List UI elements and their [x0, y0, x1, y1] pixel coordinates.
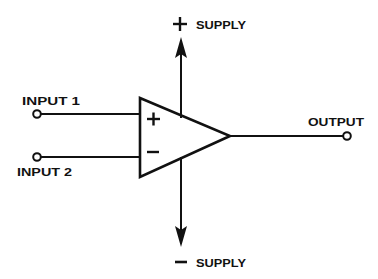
plus-supply-sign-icon [173, 17, 187, 31]
input1-label: INPUT 1 [22, 95, 81, 107]
input2-label: INPUT 2 [17, 166, 72, 178]
plus-supply-label: SUPPLY [196, 19, 246, 31]
plus-sign-icon [147, 113, 160, 126]
input1-terminal [33, 110, 41, 118]
minus-supply-label: SUPPLY [196, 257, 246, 269]
input2-terminal [33, 153, 41, 161]
op-amp-diagram: INPUT 1 INPUT 2 OUTPUT SUPPLY SUPPLY [0, 0, 378, 279]
output-terminal [343, 132, 351, 140]
op-amp-triangle [140, 98, 230, 177]
output-label: OUTPUT [308, 116, 364, 128]
